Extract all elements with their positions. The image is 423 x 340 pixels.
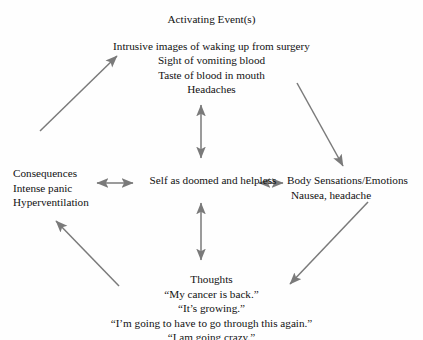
core-belief-title: Self as doomed and helpless bbox=[140, 173, 286, 188]
node-thoughts: Thoughts “My cancer is back.” “It’s grow… bbox=[0, 272, 423, 340]
thoughts-line-2: “It’s growing.” bbox=[0, 301, 423, 316]
consequences-title: Consequences bbox=[13, 166, 89, 181]
formulation-diagram-canvas: Activating Event(s) Intrusive images of … bbox=[0, 0, 423, 340]
consequences-line-2: Hyperventilation bbox=[13, 195, 89, 210]
thoughts-title: Thoughts bbox=[0, 272, 423, 287]
activating-events-line-3: Taste of blood in mouth bbox=[0, 68, 423, 83]
thoughts-line-3: “I’m going to have to go through this ag… bbox=[0, 316, 423, 331]
node-core-belief: Self as doomed and helpless bbox=[140, 173, 286, 188]
activating-events-line-2: Sight of vomiting blood bbox=[0, 53, 423, 68]
activating-events-line-4: Headaches bbox=[0, 82, 423, 97]
activating-events-line-1: Intrusive images of waking up from surge… bbox=[0, 39, 423, 54]
activating-events-title: Activating Event(s) bbox=[0, 12, 423, 27]
node-consequences: Consequences Intense panic Hyperventilat… bbox=[13, 166, 89, 210]
thoughts-line-4: “I am going crazy.” bbox=[0, 330, 423, 340]
node-activating-events: Activating Event(s) Intrusive images of … bbox=[0, 12, 423, 97]
consequences-line-1: Intense panic bbox=[13, 181, 89, 196]
body-sensations-line-1: Nausea, headache bbox=[287, 188, 408, 203]
thoughts-line-1: “My cancer is back.” bbox=[0, 287, 423, 302]
node-body-sensations: Body Sensations/Emotions Nausea, headach… bbox=[287, 173, 408, 202]
body-sensations-title: Body Sensations/Emotions bbox=[287, 173, 408, 188]
